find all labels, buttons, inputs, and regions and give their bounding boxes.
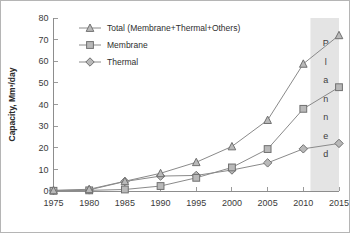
series-line <box>54 143 340 190</box>
marker-square <box>157 183 164 190</box>
x-tick-label: 1995 <box>186 198 206 208</box>
planned-letter: e <box>323 131 328 141</box>
series-thermal <box>49 139 343 195</box>
y-tick-label: 40 <box>38 100 48 110</box>
marker-square <box>336 84 343 91</box>
x-tick-label: 2005 <box>258 198 278 208</box>
planned-letter: l <box>325 57 327 67</box>
marker-triangle <box>228 142 236 149</box>
x-tick-label: 2000 <box>222 198 242 208</box>
marker-triangle <box>300 60 308 67</box>
marker-square <box>229 164 236 171</box>
series-total <box>50 31 343 193</box>
y-tick-label: 60 <box>38 56 48 66</box>
x-tick-label: 1980 <box>79 198 99 208</box>
marker-triangle <box>192 158 200 165</box>
chart-legend: Total (Membrane+Thermal+Others)MembraneT… <box>79 23 240 67</box>
x-tick-label: 1975 <box>43 198 63 208</box>
chart-axis-titles: Capacity, Mm³/day <box>7 67 17 141</box>
legend-entry: Thermal <box>79 57 138 67</box>
x-tick-label: 2015 <box>329 198 349 208</box>
marker-square <box>193 174 200 181</box>
legend-label: Total (Membrane+Thermal+Others) <box>107 23 240 33</box>
marker-diamond <box>299 145 307 153</box>
marker-square <box>87 42 94 49</box>
legend-label: Membrane <box>107 40 148 50</box>
x-tick-label: 2010 <box>293 198 313 208</box>
line-chart: Planned 01020304050607080197519801985199… <box>1 1 350 233</box>
marker-square <box>121 186 128 193</box>
chart-series <box>49 31 343 194</box>
legend-entry: Membrane <box>79 40 148 50</box>
planned-letter: n <box>323 112 328 122</box>
chart-figure: Planned 01020304050607080197519801985199… <box>0 0 350 233</box>
marker-square <box>300 105 307 112</box>
y-tick-label: 30 <box>38 121 48 131</box>
legend-label: Thermal <box>107 57 138 67</box>
planned-letter: d <box>323 149 328 159</box>
y-tick-label: 10 <box>38 165 48 175</box>
marker-square <box>264 146 271 153</box>
planned-region: Planned <box>310 18 339 191</box>
y-tick-label: 80 <box>38 13 48 23</box>
x-tick-label: 1985 <box>115 198 135 208</box>
series-line <box>54 35 340 190</box>
planned-letter: a <box>323 75 328 85</box>
series-membrane <box>50 84 342 194</box>
marker-triangle <box>264 116 272 123</box>
marker-diamond <box>263 159 271 167</box>
y-tick-label: 70 <box>38 35 48 45</box>
x-tick-label: 1990 <box>151 198 171 208</box>
y-tick-label: 50 <box>38 78 48 88</box>
legend-entry: Total (Membrane+Thermal+Others) <box>79 23 240 33</box>
marker-diamond <box>86 58 94 66</box>
y-axis-title: Capacity, Mm³/day <box>7 67 17 141</box>
y-tick-label: 20 <box>38 143 48 153</box>
y-tick-label: 0 <box>43 186 48 196</box>
